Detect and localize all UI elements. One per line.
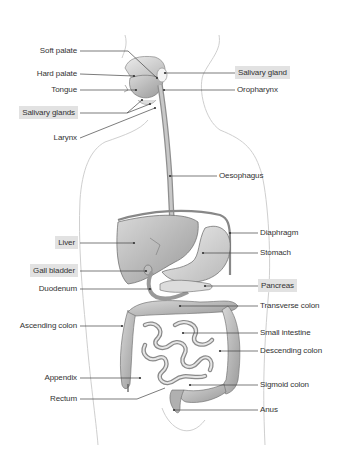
label-duodenum: Duodenum (39, 283, 77, 294)
label-transverse-colon: Transverse colon (260, 300, 319, 311)
small-intestine-shape (144, 322, 212, 383)
label-sigmoid-colon: Sigmoid colon (260, 379, 309, 390)
label-ascending-colon: Ascending colon (20, 320, 77, 331)
label-rectum: Rectum (50, 393, 77, 404)
label-gall-bladder: Gall bladder (30, 264, 78, 277)
label-pancreas: Pancreas (258, 279, 297, 292)
transverse-colon-shape (128, 301, 238, 316)
label-salivary-glands: Salivary glands (19, 106, 78, 119)
label-small-intestine: Small intestine (260, 327, 311, 338)
label-tongue: Tongue (51, 84, 77, 95)
label-larynx: Larynx (54, 132, 77, 143)
label-diaphragm: Diaphragm (260, 227, 298, 238)
rectum-shape (170, 390, 184, 413)
label-oesophagus: Oesophagus (219, 170, 263, 181)
label-liver: Liver (55, 236, 78, 249)
label-salivary-gland: Salivary gland (235, 66, 290, 79)
digestive-system-diagram: Soft palate Hard palate Tongue Salivary … (0, 0, 339, 459)
label-oropharynx: Oropharynx (237, 84, 278, 95)
label-anus: Anus (260, 404, 278, 415)
label-soft-palate: Soft palate (40, 45, 77, 56)
label-stomach: Stomach (260, 247, 291, 258)
label-appendix: Appendix (44, 372, 77, 383)
ascending-colon-shape (120, 310, 136, 389)
sigmoid-colon-shape (180, 384, 226, 403)
label-descending-colon: Descending colon (260, 345, 322, 356)
label-hard-palate: Hard palate (37, 68, 77, 79)
descending-colon-shape (222, 306, 240, 394)
